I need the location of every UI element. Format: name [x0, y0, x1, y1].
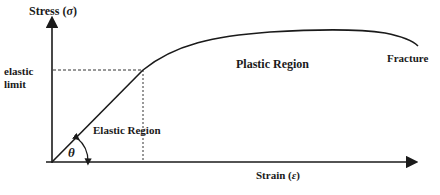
- diagram-graphics: [0, 0, 440, 195]
- x-axis-label-text: Strain: [256, 169, 285, 181]
- elastic-line: [52, 70, 143, 162]
- x-axis-label: Strain (ε): [256, 170, 300, 181]
- y-axis-label-text: Stress: [29, 4, 59, 18]
- plastic-region-label: Plastic Region: [236, 58, 309, 70]
- y-axis-label: Stress (σ): [29, 5, 77, 17]
- elastic-limit-line1: elastic: [4, 65, 33, 78]
- stress-strain-diagram: Stress (σ) elastic limit Elastic Region …: [0, 0, 440, 195]
- sigma-symbol: σ: [66, 4, 72, 18]
- theta-label: θ: [68, 146, 75, 159]
- theta-arc-icon: [77, 138, 88, 162]
- elastic-limit-label: elastic limit: [4, 65, 33, 91]
- epsilon-symbol: ε: [292, 169, 297, 181]
- fracture-label: Fracture: [387, 53, 428, 64]
- elastic-region-label: Elastic Region: [93, 125, 161, 136]
- elastic-limit-line2: limit: [4, 78, 33, 91]
